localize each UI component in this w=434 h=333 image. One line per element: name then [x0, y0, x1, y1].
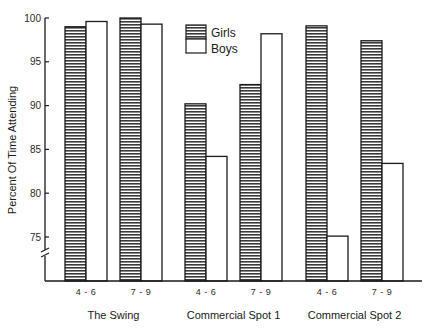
legend-swatch-boys — [186, 39, 206, 53]
y-tick-label: 85 — [30, 144, 42, 155]
bar-girls — [361, 41, 382, 281]
y-tick-label: 90 — [30, 100, 42, 111]
legend-label-boys: Boys — [211, 42, 238, 56]
bar-boys — [382, 163, 403, 281]
x-category-label: 7 - 9 — [251, 287, 272, 297]
bars — [65, 18, 403, 281]
bar-girls — [306, 26, 327, 281]
x-category-label: 7 - 9 — [131, 287, 152, 297]
legend-swatch-girls — [186, 25, 206, 39]
x-category-label: 4 - 6 — [196, 287, 217, 297]
x-group-label: Commercial Spot 2 — [308, 309, 402, 321]
x-category-label: 4 - 6 — [317, 287, 338, 297]
y-tick-label: 95 — [30, 56, 42, 67]
bar-boys — [206, 156, 227, 281]
x-category-label: 7 - 9 — [372, 287, 393, 297]
legend-label-girls: Girls — [211, 26, 236, 40]
bar-girls — [120, 18, 141, 281]
bar-boys — [141, 24, 162, 281]
bar-boys — [86, 22, 107, 281]
bar-girls — [240, 85, 261, 281]
x-group-label: The Swing — [88, 309, 140, 321]
y-axis: 7580859095100 — [24, 13, 49, 282]
x-axis: 4 - 67 - 9The Swing4 - 67 - 9Commercial … — [45, 281, 422, 321]
x-group-label: Commercial Spot 1 — [187, 309, 281, 321]
y-axis-title: Percent Of Time Attending — [6, 86, 18, 214]
bar-boys — [327, 236, 348, 281]
bar-boys — [261, 34, 282, 281]
y-tick-label: 100 — [24, 13, 41, 24]
bar-chart: 7580859095100 4 - 67 - 9The Swing4 - 67 … — [0, 0, 434, 333]
bar-girls — [65, 27, 86, 281]
y-tick-label: 80 — [30, 188, 42, 199]
y-tick-label: 75 — [30, 232, 42, 243]
legend: GirlsBoys — [186, 25, 238, 56]
x-category-label: 4 - 6 — [76, 287, 97, 297]
bar-girls — [185, 104, 206, 281]
